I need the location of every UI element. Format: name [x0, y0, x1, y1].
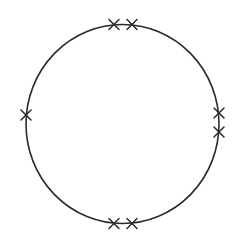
circle-diagram [0, 0, 239, 245]
x-marks-group [21, 20, 224, 229]
circle-outline [26, 25, 219, 224]
